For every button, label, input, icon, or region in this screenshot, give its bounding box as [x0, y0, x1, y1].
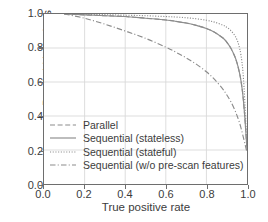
y-tick-label: 0.8 — [3, 41, 43, 53]
x-tick-label: 1.0 — [228, 188, 268, 200]
legend-line-swatch — [50, 160, 76, 170]
x-tick-mark — [207, 185, 208, 189]
y-tick-label: 1.0 — [3, 7, 43, 19]
legend-line-swatch — [50, 133, 76, 143]
x-tick-label: 0.2 — [64, 188, 104, 200]
x-axis-title: True positive rate — [43, 201, 249, 213]
legend-line-swatch — [50, 120, 76, 130]
x-tick-label: 0.6 — [146, 188, 186, 200]
legend-item: Sequential (stateless) — [50, 132, 244, 146]
x-tick-mark — [125, 185, 126, 189]
legend-item: Sequential (w/o pre-scan features) — [50, 159, 244, 173]
y-tick-label: 0.4 — [3, 110, 43, 122]
x-tick-mark — [84, 185, 85, 189]
y-tick-label: 0.2 — [3, 145, 43, 157]
x-tick-label: 0.0 — [23, 188, 63, 200]
legend-item: Sequential (stateful) — [50, 145, 244, 159]
x-tick-label: 0.8 — [187, 188, 227, 200]
legend: ParallelSequential (stateless)Sequential… — [50, 118, 244, 172]
x-tick-mark — [43, 185, 44, 189]
legend-item-label: Sequential (stateful) — [83, 146, 176, 158]
x-tick-mark — [166, 185, 167, 189]
legend-item-label: Sequential (stateless) — [83, 132, 184, 144]
legend-item-label: Sequential (w/o pre-scan features) — [83, 159, 244, 171]
legend-line-swatch — [50, 147, 76, 157]
x-tick-mark — [248, 185, 249, 189]
x-tick-label: 0.4 — [105, 188, 145, 200]
legend-item: Parallel — [50, 118, 244, 132]
bandwidth-savings-roc-figure: Bandwidth savings True positive rate 0.0… — [0, 0, 268, 222]
y-tick-label: 0.6 — [3, 76, 43, 88]
legend-item-label: Parallel — [83, 119, 118, 131]
